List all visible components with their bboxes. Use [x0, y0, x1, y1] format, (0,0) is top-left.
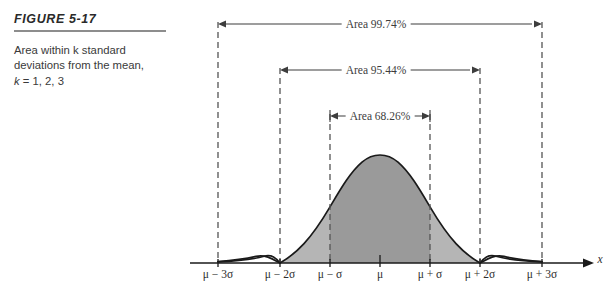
shaded-region-right-outer — [430, 207, 480, 263]
tick-label-plus-1-sigma: μ + σ — [418, 268, 443, 280]
tick-label-plus-3-sigma: μ + 3σ — [527, 268, 557, 280]
plot-svg — [0, 0, 615, 288]
curve-tail-left — [218, 256, 280, 263]
curve-tail-right — [480, 256, 542, 263]
x-axis-arrowhead — [583, 259, 594, 268]
figure-container: FIGURE 5-17 Area within k standard devia… — [0, 0, 615, 288]
bracket-label-95-44: Area 95.44% — [342, 64, 411, 76]
bracket-label-99-74: Area 99.74% — [342, 18, 411, 30]
tick-label-plus-2-sigma: μ + 2σ — [465, 268, 495, 280]
bracket-label-68-26: Area 68.26% — [346, 110, 415, 122]
tick-label-minus-3-sigma: μ − 3σ — [203, 268, 233, 280]
shaded-region-inner — [330, 155, 430, 263]
tick-label-minus-1-sigma: μ − σ — [318, 268, 343, 280]
shaded-region-left-outer — [280, 207, 330, 263]
x-axis-label: x — [597, 253, 602, 265]
tick-label-mean: μ — [377, 268, 383, 280]
tick-label-minus-2-sigma: μ − 2σ — [265, 268, 295, 280]
normal-curve-plot: Area 99.74% Area 95.44% Area 68.26% μ − … — [0, 0, 615, 288]
